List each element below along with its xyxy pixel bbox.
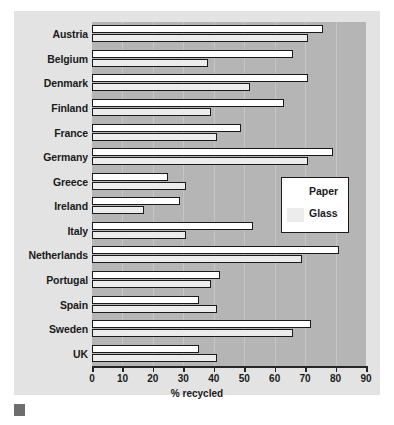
x-tick-label: 30 (178, 373, 189, 384)
category-label: Belgium (47, 53, 88, 65)
bar-belgium-glass (92, 59, 208, 67)
legend-label: Glass (309, 207, 338, 219)
bar-sweden-paper (92, 320, 311, 328)
x-tick-label: 50 (239, 373, 250, 384)
bar-germany-paper (92, 148, 333, 156)
x-tick-label: 80 (330, 373, 341, 384)
bar-france-paper (92, 124, 241, 132)
bar-italy-glass (92, 231, 186, 239)
bar-finland-paper (92, 99, 284, 107)
category-label: Italy (67, 225, 88, 237)
legend-swatch-paper (287, 186, 304, 200)
x-tick (305, 366, 307, 372)
bar-greece-glass (92, 182, 186, 190)
x-tick (244, 366, 246, 372)
figure-panel: AustriaBelgiumDenmarkFinlandFranceGerman… (14, 11, 380, 395)
category-label: Ireland (54, 200, 88, 212)
category-label: UK (73, 348, 88, 360)
category-label: Denmark (44, 77, 88, 89)
bar-austria-glass (92, 34, 308, 42)
bar-portugal-glass (92, 280, 211, 288)
category-label: Greece (53, 176, 88, 188)
bar-denmark-paper (92, 74, 308, 82)
legend-label: Paper (309, 185, 338, 197)
bar-austria-paper (92, 25, 323, 33)
category-label: Germany (43, 151, 88, 163)
bar-spain-glass (92, 305, 217, 313)
category-label: France (54, 127, 88, 139)
bar-uk-glass (92, 354, 217, 362)
x-tick (92, 366, 94, 372)
legend-item-glass: Glass (282, 206, 348, 224)
caption-marker-icon (14, 404, 25, 416)
x-tick (183, 366, 185, 372)
category-axis-labels: AustriaBelgiumDenmarkFinlandFranceGerman… (14, 22, 92, 366)
x-tick-label: 10 (117, 373, 128, 384)
bar-greece-paper (92, 173, 168, 181)
category-label: Spain (60, 299, 88, 311)
category-label: Netherlands (28, 249, 88, 261)
chart-legend: PaperGlass (281, 177, 349, 233)
x-tick (153, 366, 155, 372)
x-tick-label: 90 (360, 373, 371, 384)
x-tick (275, 366, 277, 372)
figure-caption (14, 404, 104, 418)
bar-ireland-paper (92, 197, 180, 205)
bar-finland-glass (92, 108, 211, 116)
bar-netherlands-paper (92, 246, 339, 254)
bar-france-glass (92, 133, 217, 141)
x-tick (214, 366, 216, 372)
bar-spain-paper (92, 296, 199, 304)
bar-belgium-paper (92, 50, 293, 58)
x-tick (336, 366, 338, 372)
x-tick (366, 366, 368, 372)
x-tick-label: 40 (208, 373, 219, 384)
x-tick (122, 366, 124, 372)
x-tick-label: 0 (89, 373, 95, 384)
category-label: Finland (51, 102, 88, 114)
legend-swatch-glass (287, 208, 304, 222)
bar-germany-glass (92, 157, 308, 165)
category-label: Austria (53, 28, 88, 40)
x-tick-label: 60 (269, 373, 280, 384)
x-tick-label: 70 (300, 373, 311, 384)
bar-netherlands-glass (92, 255, 302, 263)
x-axis-line (92, 366, 366, 368)
bar-ireland-glass (92, 206, 144, 214)
bar-denmark-glass (92, 83, 250, 91)
x-axis-label: % recycled (14, 388, 380, 399)
legend-item-paper: Paper (282, 184, 348, 202)
x-tick-label: 20 (147, 373, 158, 384)
bar-uk-paper (92, 345, 199, 353)
bar-portugal-paper (92, 271, 220, 279)
category-label: Sweden (49, 323, 88, 335)
bar-italy-paper (92, 222, 253, 230)
bar-sweden-glass (92, 329, 293, 337)
category-label: Portugal (46, 274, 88, 286)
